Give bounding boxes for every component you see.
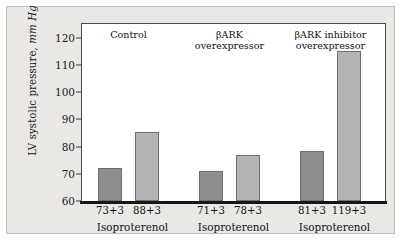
x-group-label: Isoproterenol (97, 221, 168, 233)
bar-isoproterenol-0 (135, 132, 159, 201)
bar-isoproterenol-2 (337, 51, 361, 201)
y-tick-label: 100 (55, 86, 75, 98)
y-tick-label: 70 (62, 168, 75, 180)
bar-baseline-1 (199, 171, 223, 201)
bar-baseline-2 (300, 151, 324, 201)
x-axis-line (80, 201, 387, 204)
x-axis-labels: 73+388+3Isoproterenol71+378+3Isoproteren… (7, 205, 396, 245)
y-axis-title: LV systolic pressure, mm Hg (27, 1, 38, 161)
y-axis-title-units: mm Hg (27, 5, 38, 47)
x-value-label: 81+3 (298, 205, 326, 216)
figure-panel: LV systolic pressure, mm Hg 607080901001… (6, 6, 395, 234)
y-tick-label: 90 (62, 113, 75, 125)
bar-baseline-0 (98, 168, 122, 201)
y-axis-title-plain: LV systolic pressure, (27, 47, 38, 156)
x-group-label: Isoproterenol (299, 221, 370, 233)
y-tick-label: 80 (62, 141, 75, 153)
x-group-label: Isoproterenol (198, 221, 269, 233)
x-value-label: 78+3 (234, 205, 262, 216)
y-tick-label: 110 (55, 59, 75, 71)
bars-layer (82, 24, 385, 201)
bar-isoproterenol-1 (236, 155, 260, 201)
x-value-label: 88+3 (133, 205, 161, 216)
x-value-label: 119+3 (332, 205, 366, 216)
x-value-label: 71+3 (197, 205, 225, 216)
x-value-label: 73+3 (96, 205, 124, 216)
